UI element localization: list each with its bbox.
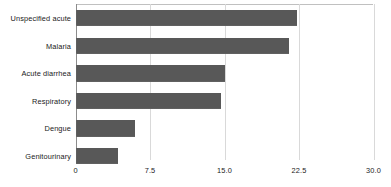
bar-chart: Unspecified acute Malaria Acute diarrhea… [0,0,391,187]
x-axis-tick-label-0: 0 [73,166,77,175]
gridline-0 [76,4,77,160]
y-axis-labels: Unspecified acute Malaria Acute diarrhea… [0,0,71,187]
gridline-22-5 [299,4,300,160]
x-axis-tick-label-7-5: 7.5 [145,166,156,175]
y-axis-label-genitourinary: Genitourinary [25,152,71,161]
bar-acute-diarrhea [76,65,225,82]
y-axis-label-dengue: Dengue [45,124,72,133]
gridline-7-5 [150,4,151,160]
bar-respiratory [76,93,221,110]
x-axis-tick-label-15-0: 15.0 [217,166,232,175]
bar-genitourinary [76,148,119,165]
y-axis-label-acute-diarrhea: Acute diarrhea [22,69,71,78]
x-axis-tick-label-30-0: 30.0 [366,166,381,175]
x-axis-tick-label-22-5: 22.5 [292,166,307,175]
gridline-30-0 [374,4,375,160]
gridline-15-0 [225,4,226,160]
bar-unspecified-acute [76,10,298,26]
bar-dengue [76,120,136,137]
y-axis-label-malaria: Malaria [46,42,71,51]
plot-area [76,4,374,160]
y-axis-label-respiratory: Respiratory [32,97,71,106]
y-axis-label-unspecified-acute: Unspecified acute [11,14,71,23]
bar-malaria [76,38,290,54]
